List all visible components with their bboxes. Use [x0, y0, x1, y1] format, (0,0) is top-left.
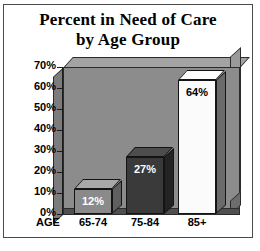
plot-area: 70% 60% 50% 40% 30% 20%: [4, 5, 254, 239]
chart-card: Percent in Need of Care by Age Group 70%…: [3, 4, 253, 238]
bar-65-74: 12%: [74, 67, 112, 214]
y-tick-label-30: 30%: [34, 144, 56, 155]
y-axis: 70% 60% 50% 40% 30% 20%: [4, 5, 62, 239]
y-tick-mark-40: [57, 130, 62, 131]
x-label-65-74: 65-74: [70, 216, 116, 229]
y-tick-label-50: 50%: [34, 102, 56, 113]
bar-value-label-85-plus: 64%: [178, 87, 216, 98]
y-tick-label-60: 60%: [34, 81, 56, 92]
y-tick-mark-60: [57, 88, 62, 89]
y-tick-label-70: 70%: [34, 60, 56, 71]
bar-value-label-75-84: 27%: [126, 164, 164, 175]
y-tick-label-40: 40%: [34, 123, 56, 134]
bar-75-84: 27%: [126, 67, 164, 214]
y-tick-mark-20: [57, 172, 62, 173]
x-label-85-plus: 85+: [174, 216, 220, 229]
bar-value-label-65-74: 12%: [74, 196, 112, 207]
bar-side-85-plus: [216, 71, 226, 214]
x-axis: AGE 65-74 75-84 85+: [4, 216, 254, 234]
bar-front-85-plus: [178, 80, 216, 214]
y-tick-mark-0: [57, 214, 62, 215]
bar-85-plus: 64%: [178, 67, 216, 214]
y-axis-line: [62, 67, 63, 215]
y-tick-label-10: 10%: [34, 186, 56, 197]
bar-side-75-84: [164, 148, 174, 214]
y-tick-label-20: 20%: [34, 165, 56, 176]
y-tick-mark-50: [57, 109, 62, 110]
x-axis-title-age: AGE: [26, 216, 70, 229]
y-tick-mark-10: [57, 193, 62, 194]
y-tick-mark-70: [57, 67, 62, 68]
x-label-75-84: 75-84: [122, 216, 168, 229]
y-tick-mark-30: [57, 151, 62, 152]
